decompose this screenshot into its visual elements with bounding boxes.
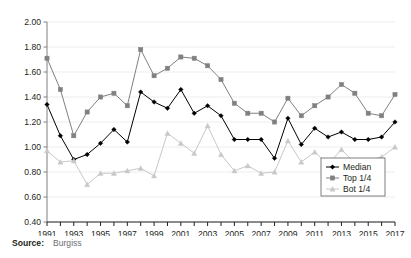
data-point xyxy=(245,137,250,142)
y-tick-label: 0.80 xyxy=(24,167,41,177)
x-tick-label: 1991 xyxy=(37,229,56,237)
data-point xyxy=(205,123,210,128)
data-point xyxy=(151,173,156,178)
data-point xyxy=(326,95,330,99)
series-median xyxy=(45,87,398,162)
data-point xyxy=(393,92,397,96)
data-point xyxy=(192,56,196,60)
data-point xyxy=(246,111,250,115)
series-top-1-4 xyxy=(45,47,397,137)
data-point xyxy=(313,104,317,108)
y-tick-label: 1.40 xyxy=(24,92,41,102)
data-point xyxy=(45,56,49,60)
y-tick-label: 2.00 xyxy=(24,17,41,27)
data-point xyxy=(339,130,344,135)
data-point xyxy=(299,114,303,118)
legend-label: Median xyxy=(343,162,371,172)
y-tick-label: 0.40 xyxy=(24,217,41,227)
x-tick-label: 1997 xyxy=(118,229,137,237)
y-tick-label: 0.60 xyxy=(24,192,41,202)
y-axis-ticks xyxy=(44,22,48,222)
data-point xyxy=(353,91,357,95)
data-point xyxy=(85,110,89,114)
data-point xyxy=(219,77,223,81)
data-point xyxy=(353,137,358,142)
x-tick-label: 2013 xyxy=(332,229,351,237)
data-point xyxy=(179,55,183,59)
data-point xyxy=(286,116,291,121)
data-point xyxy=(58,133,63,138)
y-tick-label: 1.20 xyxy=(24,117,41,127)
data-point xyxy=(312,149,317,154)
x-tick-label: 2009 xyxy=(278,229,297,237)
chart-legend: MedianTop 1/4Bot 1/4 xyxy=(321,158,385,196)
y-tick-label: 1.80 xyxy=(24,42,41,52)
source-line: Source:Burgiss xyxy=(12,238,82,248)
source-label: Source: xyxy=(12,238,44,248)
x-axis-tick-labels: 1991199319951997199920012003200520072009… xyxy=(37,229,404,237)
data-point xyxy=(259,111,263,115)
data-point xyxy=(165,66,169,70)
x-tick-label: 1999 xyxy=(145,229,164,237)
data-point xyxy=(366,137,371,142)
data-point xyxy=(138,166,143,171)
data-point xyxy=(72,134,76,138)
y-axis-tick-labels: 0.400.600.801.001.201.401.601.802.00 xyxy=(24,17,41,227)
data-point xyxy=(112,91,116,95)
data-point xyxy=(58,87,62,91)
data-point xyxy=(206,64,210,68)
data-point xyxy=(339,147,344,152)
data-point xyxy=(152,74,156,78)
legend-label: Top 1/4 xyxy=(343,173,371,183)
legend-marker xyxy=(330,176,334,180)
x-tick-label: 2005 xyxy=(225,229,244,237)
line-chart: 0.400.600.801.001.201.401.601.802.00 199… xyxy=(0,0,411,236)
data-point xyxy=(98,95,102,99)
data-point xyxy=(218,152,223,157)
x-tick-label: 1995 xyxy=(91,229,110,237)
source-value: Burgiss xyxy=(53,238,82,248)
data-point xyxy=(165,131,170,136)
data-point xyxy=(245,163,250,168)
x-tick-label: 2001 xyxy=(171,229,190,237)
x-tick-label: 1993 xyxy=(64,229,83,237)
data-point xyxy=(272,120,276,124)
data-point xyxy=(232,101,236,105)
x-tick-label: 2011 xyxy=(305,229,324,237)
y-tick-label: 1.60 xyxy=(24,67,41,77)
x-tick-label: 2017 xyxy=(385,229,404,237)
data-point xyxy=(366,111,370,115)
data-point xyxy=(339,82,343,86)
y-tick-label: 1.00 xyxy=(24,142,41,152)
data-point xyxy=(125,104,129,108)
data-point xyxy=(192,111,197,116)
x-axis-ticks xyxy=(47,222,395,226)
x-tick-label: 2007 xyxy=(252,229,271,237)
data-point xyxy=(380,114,384,118)
chart-figure: 0.400.600.801.001.201.401.601.802.00 199… xyxy=(0,0,411,258)
x-tick-label: 2003 xyxy=(198,229,217,237)
legend-label: Bot 1/4 xyxy=(343,184,370,194)
data-point xyxy=(232,137,237,142)
data-point xyxy=(44,148,49,153)
data-point xyxy=(285,138,290,143)
data-point xyxy=(286,96,290,100)
x-tick-label: 2015 xyxy=(359,229,378,237)
data-point xyxy=(45,102,50,107)
data-point xyxy=(139,47,143,51)
